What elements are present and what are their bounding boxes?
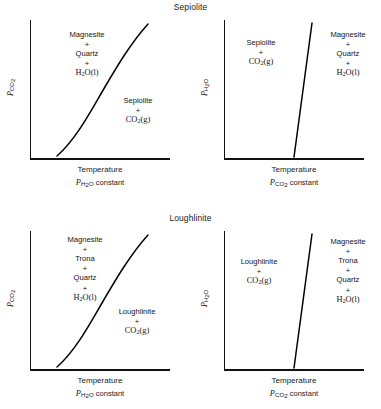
panel-loughlinite-ph2o: PH2O Loughlinite + CO2(g) Magnesite + Tr… xyxy=(202,227,372,409)
section-loughlinite: Loughlinite PCO2 Magnesite + Trona + Qua… xyxy=(0,205,381,409)
panel-loughlinite-pco2: PCO2 Magnesite + Trona + Quartz + H2O(l) xyxy=(8,227,178,409)
x-axis-label: Temperature xyxy=(78,376,123,385)
field-magnesite-quartz-water: Magnesite + Quartz + H2O(l) xyxy=(50,30,124,80)
y-axis-label-ph2o: PH2O xyxy=(200,26,211,96)
field-magnesite-trona-quartz-water: Magnesite + Trona + Quartz + H2O(l) xyxy=(316,237,380,306)
y-axis-label-ph2o: PH2O xyxy=(200,237,211,307)
x-axis-label: Temperature xyxy=(272,165,317,174)
field-loughlinite-co2: Loughlinite + CO2(g) xyxy=(228,257,290,288)
plot-area: Magnesite + Trona + Quartz + H2O(l) Loug… xyxy=(30,231,170,371)
x-axis-condition: PH2Oconstant xyxy=(30,177,170,191)
x-axis-condition: PCO2constant xyxy=(224,388,364,402)
x-axis-caption: Temperature PCO2constant xyxy=(224,164,364,191)
field-sepiolite-co2: Sepiolite + CO2(g) xyxy=(232,38,290,69)
x-axis-caption: Temperature PH2Oconstant xyxy=(30,375,170,402)
y-axis-label-pco2: PCO2 xyxy=(6,26,17,96)
x-axis-label: Temperature xyxy=(272,376,317,385)
x-axis-caption: Temperature PH2Oconstant xyxy=(30,164,170,191)
phase-diagram-figure: Sepiolite PCO2 Magnesite + Quartz + H2O(… xyxy=(0,0,381,409)
panel-sepiolite-ph2o: PH2O Sepiolite + CO2(g) Magnesite + Quar… xyxy=(202,16,372,201)
section-sepiolite: Sepiolite PCO2 Magnesite + Quartz + H2O(… xyxy=(0,0,381,204)
x-axis-caption: Temperature PCO2constant xyxy=(224,375,364,402)
x-axis-condition: PH2Oconstant xyxy=(30,388,170,402)
x-axis-condition: PCO2constant xyxy=(224,177,364,191)
panel-sepiolite-pco2: PCO2 Magnesite + Quartz + H2O(l) Sepioli… xyxy=(8,16,178,201)
field-sepiolite-co2: Sepiolite + CO2(g) xyxy=(108,96,168,127)
plot-area: Sepiolite + CO2(g) Magnesite + Quartz + … xyxy=(224,20,364,160)
field-loughlinite-co2: Loughlinite + CO2(g) xyxy=(104,307,170,338)
field-magnesite-quartz-water: Magnesite + Quartz + H2O(l) xyxy=(316,30,380,80)
x-axis-label: Temperature xyxy=(78,165,123,174)
section-title-loughlinite: Loughlinite xyxy=(0,213,381,224)
section-title-sepiolite: Sepiolite xyxy=(0,2,381,13)
plot-area: Magnesite + Quartz + H2O(l) Sepiolite + … xyxy=(30,20,170,160)
y-axis-label-pco2: PCO2 xyxy=(6,237,17,307)
field-magnesite-trona-quartz-water: Magnesite + Trona + Quartz + H2O(l) xyxy=(48,235,122,304)
plot-area: Loughlinite + CO2(g) Magnesite + Trona +… xyxy=(224,231,364,371)
